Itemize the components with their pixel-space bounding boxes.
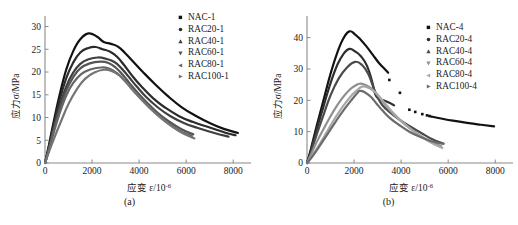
legend-item-rac80-4[interactable]: RAC80-4 (424, 69, 477, 81)
y-tick-label: 0 (298, 158, 303, 168)
legend-marker-triangle-left-icon (424, 72, 433, 79)
legend-label: RAC20-4 (436, 34, 472, 46)
y-tick-label: 40 (294, 33, 304, 43)
legend-label: NAC-4 (436, 22, 463, 34)
y-axis-title: 应力σ/MPa (10, 73, 21, 119)
legend-marker-triangle-up-icon (176, 38, 185, 45)
legend-label: RAC40-4 (436, 46, 472, 58)
legend-item-rac100-1[interactable]: RAC100-1 (176, 71, 229, 83)
curve-marker-nac-4 (421, 113, 424, 116)
curve-marker-nac-4 (408, 108, 411, 111)
legend-label: NAC-1 (188, 12, 215, 24)
x-axis-title: 应变 ε/10-6 (127, 182, 172, 194)
x-tick-label: 8000 (486, 166, 505, 176)
legend-marker-triangle-down-icon (424, 60, 433, 67)
x-axis-title: 应变 ε/10-6 (389, 182, 434, 194)
legend-item-rac60-1[interactable]: RAC60-1 (176, 47, 229, 59)
curve-rac80-4 (307, 86, 442, 163)
y-tick-label: 0 (36, 158, 41, 168)
legend-label: RAC60-1 (188, 47, 224, 59)
legend-marker-triangle-left-icon (176, 62, 185, 69)
y-tick-label: 30 (294, 64, 304, 74)
y-axis-title: 应力σ/MPa (272, 73, 283, 119)
legend-marker-circle-icon (424, 36, 433, 43)
x-tick-label: 6000 (439, 166, 458, 176)
legend-a: NAC-1RAC20-1RAC40-1RAC60-1RAC80-1RAC100-… (176, 12, 229, 83)
y-tick-label: 20 (32, 67, 42, 77)
legend-label: RAC60-4 (436, 57, 472, 69)
x-tick-label: 0 (43, 166, 48, 176)
legend-item-rac40-1[interactable]: RAC40-1 (176, 36, 229, 48)
x-tick-label: 0 (305, 166, 310, 176)
legend-marker-square-icon (424, 24, 433, 31)
panel-caption-a: (a) (0, 196, 259, 207)
y-tick-label: 20 (294, 96, 304, 106)
curve-rac40-4 (307, 62, 443, 163)
figure-container: 02000400060008000051015202530应变 ε/10-6应力… (0, 0, 518, 225)
legend-marker-triangle-up-icon (424, 48, 433, 55)
curve-marker-nac-4 (414, 111, 417, 114)
legend-item-nac-4[interactable]: NAC-4 (424, 22, 477, 34)
x-tick-label: 8000 (224, 166, 243, 176)
y-tick-label: 5 (36, 136, 41, 146)
curve-marker-nac-4 (388, 79, 391, 82)
legend-label: RAC80-4 (436, 69, 472, 81)
y-tick-label: 15 (32, 90, 42, 100)
legend-label: RAC80-1 (188, 59, 224, 71)
legend-item-nac-1[interactable]: NAC-1 (176, 12, 229, 24)
y-tick-label: 10 (294, 127, 304, 137)
panel-caption-b: (b) (259, 196, 518, 207)
legend-item-rac100-4[interactable]: RAC100-4 (424, 81, 477, 93)
legend-marker-circle-icon (176, 26, 185, 33)
legend-item-rac20-1[interactable]: RAC20-1 (176, 24, 229, 36)
legend-label: RAC100-1 (188, 71, 229, 83)
x-tick-label: 4000 (392, 166, 411, 176)
y-tick-label: 25 (32, 45, 42, 55)
legend-b: NAC-4RAC20-4RAC40-4RAC60-4RAC80-4RAC100-… (424, 22, 477, 93)
y-tick-label: 10 (32, 113, 42, 123)
y-tick-label: 30 (32, 22, 42, 32)
x-tick-label: 6000 (177, 166, 196, 176)
legend-label: RAC40-1 (188, 36, 224, 48)
chart-panel-a: 02000400060008000051015202530应变 ε/10-6应力… (0, 0, 259, 225)
x-tick-label: 4000 (130, 166, 149, 176)
legend-item-rac20-4[interactable]: RAC20-4 (424, 34, 477, 46)
x-tick-label: 2000 (83, 166, 102, 176)
curve-marker-nac-4 (426, 114, 429, 117)
legend-item-rac80-1[interactable]: RAC80-1 (176, 59, 229, 71)
legend-label: RAC20-1 (188, 24, 224, 36)
plot-area-b: 02000400060008000010203040应变 ε/10-6应力σ/M… (259, 0, 518, 200)
legend-label: RAC100-4 (436, 81, 477, 93)
legend-marker-triangle-right-icon (176, 73, 185, 80)
legend-marker-square-icon (176, 14, 185, 21)
x-tick-label: 2000 (345, 166, 364, 176)
curve-marker-nac-4 (399, 92, 402, 95)
legend-marker-triangle-right-icon (424, 83, 433, 90)
legend-item-rac60-4[interactable]: RAC60-4 (424, 57, 477, 69)
legend-item-rac40-4[interactable]: RAC40-4 (424, 46, 477, 58)
legend-marker-triangle-down-icon (176, 50, 185, 57)
chart-panel-b: 02000400060008000010203040应变 ε/10-6应力σ/M… (259, 0, 518, 225)
curve-tail-nac-4 (431, 116, 495, 126)
